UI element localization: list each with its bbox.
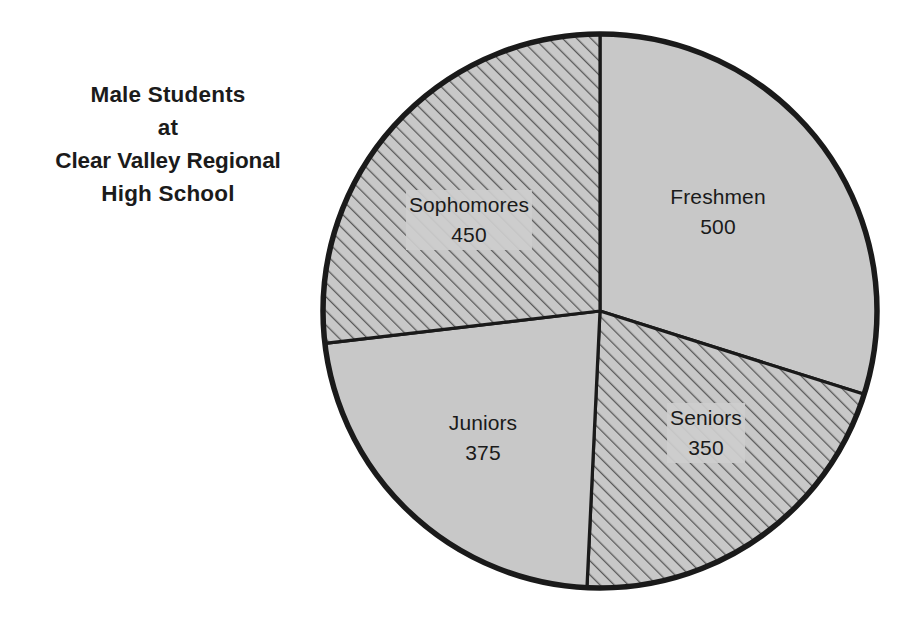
pie-chart-figure: Male Students at Clear Valley Regional H… bbox=[0, 0, 911, 621]
slice-label-juniors: Juniors375 bbox=[446, 408, 520, 468]
slice-label-value: 375 bbox=[446, 438, 520, 468]
slice-label-value: 350 bbox=[667, 433, 745, 463]
slice-label-value: 450 bbox=[406, 220, 532, 250]
slice-label-name: Freshmen bbox=[667, 182, 768, 212]
slice-label-seniors: Seniors350 bbox=[667, 403, 745, 463]
slice-label-value: 500 bbox=[667, 212, 768, 242]
slice-label-name: Seniors bbox=[667, 403, 745, 433]
pie-slice-sophomores[interactable] bbox=[323, 34, 600, 343]
pie-graphic bbox=[0, 0, 911, 621]
slice-label-name: Sophomores bbox=[406, 190, 532, 220]
slice-label-freshmen: Freshmen500 bbox=[667, 182, 768, 242]
slice-label-name: Juniors bbox=[446, 408, 520, 438]
slice-label-sophomores: Sophomores450 bbox=[406, 190, 532, 250]
pie-slices bbox=[323, 34, 877, 588]
